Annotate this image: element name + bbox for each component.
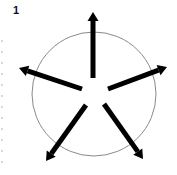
- arrow-upper-right: [108, 70, 159, 89]
- arrow-upper-left: [28, 71, 82, 89]
- arrow-lower-right: [104, 104, 138, 152]
- arrow-lower-left: [51, 105, 86, 154]
- arrow-up-head-icon: [88, 12, 99, 21]
- arrows-group: [19, 12, 167, 161]
- radial-arrows-diagram: [0, 0, 177, 175]
